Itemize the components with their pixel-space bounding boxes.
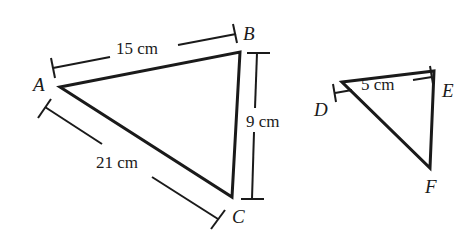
diagram-canvas: 15 cm 9 cm 21 cm A B C 5 cm [0,0,467,241]
vertex-label-b: B [243,23,255,44]
vertex-label-f: F [424,176,437,197]
label-de-length: 5 cm [361,75,395,94]
triangle-abc [60,52,240,197]
label-ab-length: 15 cm [116,39,158,58]
vertex-label-e: E [441,80,454,101]
label-bc-length: 9 cm [246,112,280,131]
vertex-label-d: D [313,99,328,120]
label-ac-length: 21 cm [96,153,138,172]
vertex-label-c: C [232,206,245,227]
similar-triangles-diagram: 15 cm 9 cm 21 cm A B C 5 cm [0,0,467,241]
vertex-label-a: A [31,74,45,95]
